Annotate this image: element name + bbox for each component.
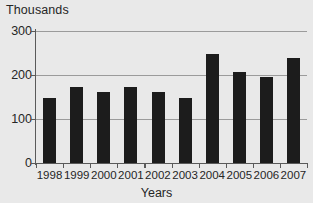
bar-2001 xyxy=(124,87,137,163)
x-tick-label-2000: 2000 xyxy=(89,169,119,182)
gridline-300 xyxy=(36,31,307,32)
y-tick-label-0: 0 xyxy=(0,157,32,170)
x-tick-mark-2007 xyxy=(280,164,281,168)
y-tick-label-100: 100 xyxy=(0,113,32,126)
bar-2002 xyxy=(152,92,165,163)
x-tick-label-2003: 2003 xyxy=(170,169,200,182)
x-tick-mark-2000 xyxy=(90,164,91,168)
bar-2004 xyxy=(206,54,219,163)
y-axis-tick-labels: 300 200 100 0 xyxy=(0,0,32,203)
bar-2000 xyxy=(97,92,110,163)
x-tick-label-2001: 2001 xyxy=(116,169,146,182)
x-tick-label-2006: 2006 xyxy=(251,169,281,182)
x-axis-title: Years xyxy=(0,186,313,200)
bar-2006 xyxy=(260,77,273,163)
x-tick-mark-2001 xyxy=(117,164,118,168)
bar-chart: Thousands 300 200 100 0 1998199920002001… xyxy=(0,0,313,203)
bar-1998 xyxy=(43,98,56,163)
x-tick-label-2002: 2002 xyxy=(143,169,173,182)
bar-1999 xyxy=(70,87,83,163)
x-tick-mark-1998 xyxy=(36,164,37,168)
x-tick-mark-2003 xyxy=(172,164,173,168)
bar-2007 xyxy=(287,58,300,163)
bar-2005 xyxy=(233,72,246,164)
gridline-200 xyxy=(36,75,307,76)
x-tick-label-1999: 1999 xyxy=(62,169,92,182)
y-tick-label-300: 300 xyxy=(0,25,32,38)
x-tick-mark-2004 xyxy=(199,164,200,168)
x-tick-label-2007: 2007 xyxy=(278,169,308,182)
x-tick-mark-2005 xyxy=(226,164,227,168)
bar-2003 xyxy=(179,98,192,163)
x-tick-mark-end xyxy=(307,164,308,168)
x-tick-mark-2006 xyxy=(253,164,254,168)
x-tick-label-2005: 2005 xyxy=(224,169,254,182)
x-tick-label-2004: 2004 xyxy=(197,169,227,182)
x-tick-label-1998: 1998 xyxy=(35,169,65,182)
plot-area xyxy=(36,31,307,163)
x-tick-mark-1999 xyxy=(63,164,64,168)
y-tick-label-200: 200 xyxy=(0,69,32,82)
x-tick-mark-2002 xyxy=(144,164,145,168)
